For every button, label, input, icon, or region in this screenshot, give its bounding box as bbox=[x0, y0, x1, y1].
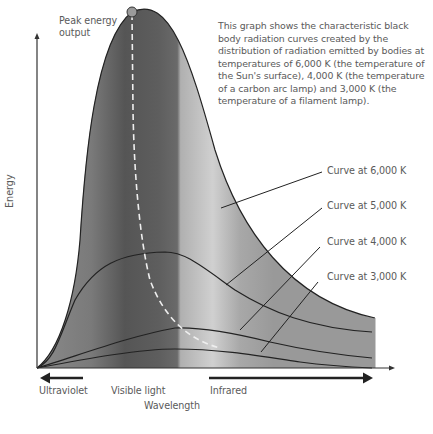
visible-light-label: Visible light bbox=[111, 385, 165, 397]
label-curve-4000k: Curve at 4,000 K bbox=[327, 236, 406, 248]
infrared-arrow-head-icon bbox=[363, 373, 373, 384]
label-curve-5000k: Curve at 5,000 K bbox=[327, 200, 406, 212]
y-axis-label: Energy bbox=[4, 174, 15, 208]
label-curve-6000k: Curve at 6,000 K bbox=[327, 165, 406, 177]
ultraviolet-label: Ultraviolet bbox=[39, 385, 88, 397]
ultraviolet-arrow-head-icon bbox=[40, 373, 50, 384]
infrared-label: Infrared bbox=[210, 385, 247, 397]
leader-6000k bbox=[221, 172, 322, 208]
x-axis-arrow-icon bbox=[389, 366, 395, 371]
label-curve-3000k: Curve at 3,000 K bbox=[327, 271, 406, 283]
x-axis-label: Wavelength bbox=[144, 400, 200, 412]
peak-energy-label: Peak energy output bbox=[59, 15, 117, 40]
description-text: This graph shows the characteristic blac… bbox=[218, 20, 430, 108]
y-axis-arrow-icon bbox=[35, 33, 40, 39]
peak-marker bbox=[127, 7, 137, 17]
